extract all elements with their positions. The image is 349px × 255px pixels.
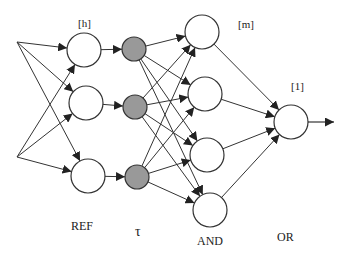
and-node-3 xyxy=(193,193,227,227)
edge-tau-and xyxy=(143,45,191,98)
ref-size-label: [h] xyxy=(78,17,91,29)
tau-node-1 xyxy=(123,95,147,119)
edge-and-or xyxy=(223,128,275,149)
tau-layer-label: τ xyxy=(135,224,141,240)
network-diagram xyxy=(0,0,349,255)
and-node-1 xyxy=(188,77,222,111)
ref-node-1 xyxy=(69,86,103,120)
or-layer-label: OR xyxy=(277,230,294,245)
edge-tau-and xyxy=(142,48,195,167)
and-size-label: [m] xyxy=(238,18,254,30)
edge-tau-and xyxy=(145,107,195,168)
or-size-label: [1] xyxy=(291,80,304,92)
tau-node-0 xyxy=(122,37,146,61)
edge-tau-and xyxy=(146,36,186,46)
and-node-2 xyxy=(190,138,224,172)
edge-tau-and xyxy=(148,182,195,203)
nodes xyxy=(67,15,308,227)
and-node-0 xyxy=(185,15,219,49)
or-node-0 xyxy=(274,105,308,139)
edge-input-ref xyxy=(17,42,73,92)
edge-input-ref xyxy=(17,64,75,157)
ref-layer-label: REF xyxy=(71,219,93,234)
edge-tau-and xyxy=(148,160,190,173)
ref-node-0 xyxy=(67,33,101,67)
ref-node-2 xyxy=(71,159,105,193)
edge-ref-tau xyxy=(103,104,123,106)
edge-input-ref xyxy=(17,157,72,172)
edge-and-or xyxy=(221,99,275,116)
edge-tau-and xyxy=(145,114,193,146)
tau-node-2 xyxy=(125,165,149,189)
edge-and-or xyxy=(222,135,280,198)
edge-input-ref xyxy=(17,42,67,48)
edge-input-ref xyxy=(17,113,73,157)
and-layer-label: AND xyxy=(197,234,223,249)
